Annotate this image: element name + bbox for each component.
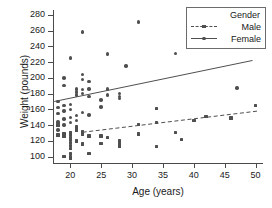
legend-item-male[interactable]: Male [191, 21, 261, 33]
x-tick [101, 163, 102, 168]
data-point-female [62, 104, 65, 107]
y-tick-label: 240 [0, 42, 45, 51]
x-tick [70, 163, 71, 168]
y-tick-label: 180 [0, 89, 45, 98]
data-point-male [69, 133, 72, 136]
data-point-female [106, 93, 109, 96]
data-point-male [254, 104, 257, 107]
data-point-female [75, 93, 78, 96]
data-point-male [106, 136, 109, 139]
data-point-female [69, 56, 72, 59]
trendline-male [83, 111, 259, 132]
male-line-swatch-icon [191, 22, 217, 32]
data-point-male [137, 132, 140, 135]
data-point-male [62, 134, 65, 137]
x-tick-label: 30 [117, 171, 147, 180]
data-point-female [62, 109, 65, 112]
data-point-female [99, 105, 102, 108]
legend-item-female[interactable]: Female [191, 33, 261, 45]
x-tick-label: 25 [86, 171, 116, 180]
x-tick-label: 45 [210, 171, 240, 180]
data-point-male [99, 142, 102, 145]
data-point-male [229, 116, 232, 119]
data-point-male [75, 128, 78, 131]
data-point-male [87, 152, 90, 155]
legend-label-male: Male [221, 22, 261, 32]
data-point-female [124, 64, 127, 67]
data-point-female [69, 116, 72, 119]
data-point-female [87, 113, 90, 116]
data-point-male [75, 139, 78, 142]
y-tick-label: 260 [0, 26, 45, 35]
y-tick-label: 120 [0, 136, 45, 145]
x-tick [256, 163, 257, 168]
x-axis-title: Age (years) [53, 186, 263, 197]
data-point-female [87, 87, 90, 90]
y-tick-label: 140 [0, 121, 45, 130]
data-point-female [235, 86, 238, 89]
female-line-swatch-icon [191, 34, 217, 44]
data-point-male [118, 145, 121, 148]
legend-label-female: Female [221, 34, 261, 44]
data-point-female [106, 52, 109, 55]
data-point-male [99, 134, 102, 137]
x-tick [194, 163, 195, 168]
data-point-female [62, 76, 65, 79]
y-axis-tick-labels: 100120140160180200220240260280 [0, 0, 47, 208]
x-tick [225, 163, 226, 168]
data-point-male [87, 134, 90, 137]
x-tick-label: 20 [55, 171, 85, 180]
data-point-female [56, 100, 59, 103]
data-point-female [56, 112, 59, 115]
data-point-female [174, 52, 177, 55]
y-tick-label: 100 [0, 152, 45, 161]
data-point-male [69, 147, 72, 150]
x-tick-label: 50 [241, 171, 271, 180]
data-point-male [56, 134, 59, 137]
data-point-female [99, 98, 102, 101]
data-point-male [81, 142, 84, 145]
data-point-male [56, 123, 59, 126]
y-tick-label: 200 [0, 73, 45, 82]
data-point-male [69, 157, 72, 160]
y-tick-label: 220 [0, 58, 45, 67]
data-point-female [137, 20, 140, 23]
data-point-male [174, 131, 177, 134]
x-tick-label: 40 [179, 171, 209, 180]
x-axis-line [53, 163, 263, 164]
data-point-male [62, 155, 65, 158]
legend-title: Gender [191, 10, 261, 21]
x-tick [163, 163, 164, 168]
x-tick [132, 163, 133, 168]
data-point-female [62, 117, 65, 120]
y-tick-label: 280 [0, 10, 45, 19]
data-point-male [192, 119, 195, 122]
data-point-male [137, 123, 140, 126]
data-point-female [69, 108, 72, 111]
data-point-female [56, 128, 59, 131]
trendline-female [54, 60, 252, 101]
y-tick-label: 160 [0, 105, 45, 114]
data-point-male [204, 115, 207, 118]
x-tick-label: 35 [148, 171, 178, 180]
data-point-female [106, 87, 109, 90]
data-point-male [81, 133, 84, 136]
data-point-male [155, 145, 158, 148]
legend[interactable]: Gender Male Female [186, 7, 266, 49]
data-point-female [62, 123, 65, 126]
scatter-plot-figure: Weight (pounds) 100120140160180200220240… [0, 0, 272, 208]
data-point-male [180, 138, 183, 141]
